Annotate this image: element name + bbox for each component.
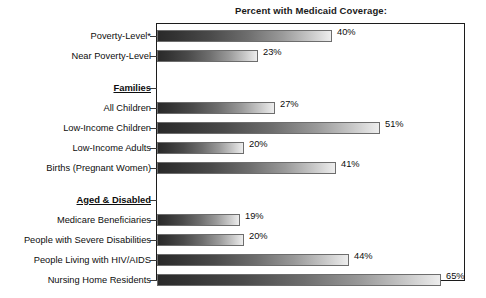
bar-value-label: 40% — [337, 25, 356, 39]
axis-tick — [150, 88, 157, 89]
bar-value-label: 27% — [280, 97, 299, 111]
chart-row: Low-Income Adults20% — [0, 138, 486, 158]
axis-tick — [150, 220, 157, 221]
row-label: People Living with HIV/AIDS — [0, 250, 151, 270]
bar — [157, 254, 349, 266]
row-label: Births (Pregnant Women) — [0, 158, 151, 178]
bar — [157, 142, 244, 154]
chart-title: Percent with Medicaid Coverage: — [156, 5, 466, 16]
axis-tick — [150, 148, 157, 149]
chart-row: Nursing Home Residents65% — [0, 270, 486, 290]
row-label: All Children — [0, 98, 151, 118]
bar-value-label: 20% — [249, 229, 268, 243]
row-label: Low-Income Adults — [0, 138, 151, 158]
section-heading-label: Aged & Disabled — [0, 190, 151, 210]
axis-tick — [150, 36, 157, 37]
chart-row: Poverty-Level*40% — [0, 26, 486, 46]
bar-value-label: 19% — [245, 209, 264, 223]
section-heading-row: Aged & Disabled — [0, 190, 486, 210]
bar-container — [157, 234, 244, 246]
bar-value-label: 41% — [341, 157, 360, 171]
row-label: Medicare Beneficiaries — [0, 210, 151, 230]
bar-value-label: 44% — [354, 249, 373, 263]
bar-container — [157, 30, 332, 42]
section-heading-row: Families — [0, 78, 486, 98]
bar-container — [157, 50, 258, 62]
axis-tick — [150, 260, 157, 261]
axis-tick — [150, 200, 157, 201]
axis-tick — [150, 128, 157, 129]
bar — [157, 234, 244, 246]
bar-value-label: 20% — [249, 137, 268, 151]
row-label: People with Severe Disabilities — [0, 230, 151, 250]
row-label: Near Poverty-Level — [0, 46, 151, 66]
bar-container — [157, 162, 336, 174]
bar — [157, 214, 240, 226]
bar — [157, 122, 380, 134]
chart-row: People with Severe Disabilities20% — [0, 230, 486, 250]
axis-tick — [150, 108, 157, 109]
section-heading-label: Families — [0, 78, 151, 98]
chart-row: Births (Pregnant Women)41% — [0, 158, 486, 178]
bar-value-label: 23% — [263, 45, 282, 59]
bar-container — [157, 214, 240, 226]
bar — [157, 274, 441, 286]
bar-value-label: 51% — [385, 117, 404, 131]
bar-container — [157, 274, 441, 286]
bar-container — [157, 254, 349, 266]
bar-container — [157, 102, 275, 114]
chart-row: Medicare Beneficiaries19% — [0, 210, 486, 230]
bar-container — [157, 142, 244, 154]
row-label: Low-Income Children — [0, 118, 151, 138]
bar-container — [157, 122, 380, 134]
axis-tick — [150, 56, 157, 57]
chart-row: People Living with HIV/AIDS44% — [0, 250, 486, 270]
row-label: Nursing Home Residents — [0, 270, 151, 290]
bar — [157, 102, 275, 114]
axis-tick — [150, 168, 157, 169]
medicaid-coverage-bar-chart: Percent with Medicaid Coverage: Poverty-… — [0, 0, 486, 298]
chart-row: All Children27% — [0, 98, 486, 118]
chart-row: Near Poverty-Level23% — [0, 46, 486, 66]
axis-tick — [150, 240, 157, 241]
bar-value-label: 65% — [446, 269, 465, 283]
bar — [157, 50, 258, 62]
chart-row: Low-Income Children51% — [0, 118, 486, 138]
bar — [157, 30, 332, 42]
bar — [157, 162, 336, 174]
row-label: Poverty-Level* — [0, 26, 151, 46]
axis-tick — [150, 280, 157, 281]
